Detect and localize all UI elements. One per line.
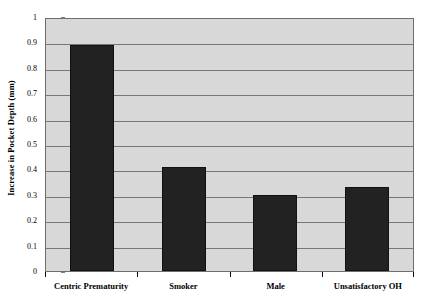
x-axis-tick-labels: Centric PrematuritySmokerMaleUnsatisfact…: [45, 280, 414, 300]
bar: [162, 167, 206, 271]
y-axis-tick-label: 0.6: [27, 116, 37, 124]
x-axis-tick-mark: [322, 272, 323, 277]
bar: [345, 187, 389, 271]
bar: [70, 45, 114, 271]
y-axis-tick-label: 0.8: [27, 65, 37, 73]
x-axis-tick-mark: [413, 272, 414, 277]
y-axis-tick-label: 0.2: [27, 217, 37, 225]
x-axis-tick-label: Unsatisfactory OH: [322, 280, 414, 300]
y-axis-title-text: Increase in Pocket Depth (mm): [6, 80, 16, 196]
y-axis-tick-label: 0.9: [27, 39, 37, 47]
x-axis-tick-mark: [137, 272, 138, 277]
y-axis-tick-label: 1: [33, 14, 37, 22]
x-axis-tick-label: Centric Prematurity: [45, 280, 137, 300]
bar-slot: [138, 19, 230, 271]
x-axis-tick-mark: [45, 272, 46, 277]
plot-area: [45, 18, 414, 272]
x-axis-tick-label: Smoker: [137, 280, 229, 300]
x-axis-tick-marks: [45, 272, 414, 277]
y-axis-tick-label: 0.3: [27, 192, 37, 200]
y-axis-title: Increase in Pocket Depth (mm): [0, 0, 22, 275]
bar-slot: [46, 19, 138, 271]
y-axis-tick-labels: 10.90.80.70.60.50.40.30.20.10: [20, 18, 41, 272]
bar-slot: [230, 19, 322, 271]
y-axis-tick-label: 0.4: [27, 166, 37, 174]
y-axis-tick-label: 0: [33, 268, 37, 276]
x-axis-tick-mark: [230, 272, 231, 277]
bar-slot: [321, 19, 413, 271]
y-axis-tick-label: 0.1: [27, 243, 37, 251]
bar-chart: Increase in Pocket Depth (mm) 10.90.80.7…: [0, 0, 428, 305]
bars-layer: [46, 19, 413, 271]
x-axis-tick-label: Male: [230, 280, 322, 300]
y-axis-tick-label: 0.7: [27, 90, 37, 98]
y-axis-tick-label: 0.5: [27, 141, 37, 149]
bar: [253, 195, 297, 271]
